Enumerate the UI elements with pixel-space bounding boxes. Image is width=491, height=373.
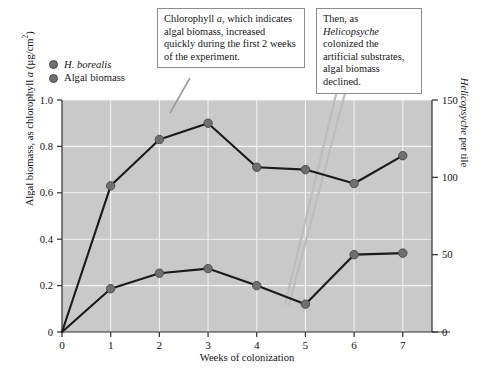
y-tick-label-right: 150 xyxy=(442,95,458,106)
data-point xyxy=(106,284,114,292)
y-tick-label-left: 0 xyxy=(48,327,53,338)
legend-label-algal-biomass: Algal biomass xyxy=(64,71,125,84)
legend-marker-icon xyxy=(49,60,58,69)
plot-background xyxy=(62,100,432,332)
x-tick-label: 7 xyxy=(400,339,406,351)
x-tick-label: 4 xyxy=(254,339,260,351)
callout-italic-term: a xyxy=(217,13,222,24)
data-point xyxy=(204,119,212,127)
legend-label-h-borealis: H. borealis xyxy=(64,58,111,71)
data-point xyxy=(106,182,114,190)
data-point xyxy=(204,264,212,272)
data-point xyxy=(301,165,309,173)
y-tick-label-right: 50 xyxy=(442,249,453,260)
data-point xyxy=(399,249,407,257)
y-tick-label-left: 0.2 xyxy=(40,280,53,291)
y-axis-label-right: Helicopsyche per tile xyxy=(459,8,470,238)
data-point xyxy=(253,163,261,171)
legend-item-h-borealis: H. borealis xyxy=(49,58,125,71)
x-tick-label: 6 xyxy=(351,339,357,351)
callout-italic-term: Helicopsyche xyxy=(323,26,379,37)
callout-helicopsyche: Then, as Helicopsyche colonized the arti… xyxy=(316,8,422,94)
data-point xyxy=(399,151,407,159)
data-point xyxy=(350,250,358,258)
y-axis-label-left: Algal biomass, as chlorophyll a (µg/cm2) xyxy=(21,0,35,239)
y-tick-label-right: 100 xyxy=(442,172,458,183)
x-tick-label: 5 xyxy=(303,339,309,351)
data-point xyxy=(155,135,163,143)
x-tick-label: 2 xyxy=(157,339,163,351)
y-tick-label-right: 0 xyxy=(442,327,447,338)
callout-chlorophyll: Chlorophyll a, which indicates algal bio… xyxy=(157,8,305,68)
data-point xyxy=(155,269,163,277)
x-tick-label: 1 xyxy=(108,339,114,351)
data-point xyxy=(301,300,309,308)
y-axis-ticks-left: 00.20.40.60.81.0 xyxy=(40,95,62,338)
data-point xyxy=(253,281,261,289)
x-axis-ticks: 01234567 xyxy=(59,332,406,351)
y-tick-label-left: 0.6 xyxy=(40,187,53,198)
x-axis-label: Weeks of colonization xyxy=(62,352,432,363)
y-tick-label-left: 0.4 xyxy=(40,234,54,245)
legend-marker-icon xyxy=(49,74,58,83)
y-tick-label-left: 0.8 xyxy=(40,141,53,152)
figure: 00.20.40.60.81.005010015001234567 H. bor… xyxy=(0,0,491,373)
data-point xyxy=(350,179,358,187)
chart-legend: H. borealis Algal biomass xyxy=(49,58,125,85)
y-tick-label-left: 1.0 xyxy=(40,95,53,106)
y-axis-ticks-right: 050100150 xyxy=(432,95,458,338)
x-tick-label: 0 xyxy=(59,339,65,351)
legend-item-algal-biomass: Algal biomass xyxy=(49,71,125,84)
x-tick-label: 3 xyxy=(205,339,211,351)
